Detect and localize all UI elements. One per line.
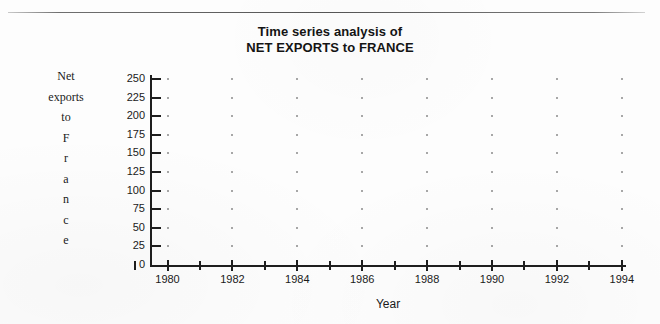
x-axis-spine [150, 265, 626, 267]
grid-dot [231, 208, 233, 210]
grid-dot [167, 115, 169, 117]
grid-dot [621, 152, 623, 154]
grid-dot [426, 97, 428, 99]
grid-dot [167, 134, 169, 136]
y-tick-label-50: 50 [105, 222, 145, 233]
grid-dot [296, 171, 298, 173]
x-tick-1982 [231, 260, 233, 271]
x-tick-label-1994: 1994 [600, 274, 644, 285]
x-tick-1994 [621, 260, 623, 271]
grid-dot [621, 227, 623, 229]
y-tick-25 [150, 245, 161, 247]
y-tick-label-200: 200 [105, 110, 145, 121]
grid-dot [167, 97, 169, 99]
y-tick-label-250: 250 [105, 73, 145, 84]
x-tick-1992 [556, 260, 558, 271]
grid-dot [361, 115, 363, 117]
x-tick-label-1986: 1986 [340, 274, 384, 285]
grid-dot [361, 78, 363, 80]
grid-dot [296, 152, 298, 154]
grid-dot [231, 245, 233, 247]
y-tick-250 [150, 78, 161, 80]
grid-dot [491, 245, 493, 247]
grid-dot [296, 134, 298, 136]
y-tick-label-125: 125 [105, 166, 145, 177]
x-tick-label-1982: 1982 [210, 274, 254, 285]
grid-dot [231, 171, 233, 173]
grid-dot [426, 115, 428, 117]
x-tick-label-1984: 1984 [275, 274, 319, 285]
x-tick-minor-1993 [588, 261, 590, 270]
grid-dot [621, 115, 623, 117]
grid-dot [556, 245, 558, 247]
grid-dot [556, 152, 558, 154]
y-tick-label-225: 225 [105, 92, 145, 103]
y-tick-label-25: 25 [105, 240, 145, 251]
grid-dot [296, 190, 298, 192]
grid-dot [621, 171, 623, 173]
x-tick-minor-1987 [394, 261, 396, 270]
y-tick-50 [150, 227, 161, 229]
grid-dot [426, 171, 428, 173]
grid-dot [296, 78, 298, 80]
y-tick-75 [150, 208, 161, 210]
grid-dot [231, 78, 233, 80]
grid-dot [621, 208, 623, 210]
grid-dot [361, 171, 363, 173]
grid-dot [491, 171, 493, 173]
grid-dot [491, 227, 493, 229]
grid-dot [491, 190, 493, 192]
grid-dot [296, 97, 298, 99]
y-tick-225 [150, 97, 161, 99]
y-tick-label-150: 150 [105, 147, 145, 158]
y-tick-label-175: 175 [105, 129, 145, 140]
x-tick-minor-1989 [459, 261, 461, 270]
grid-dot [231, 134, 233, 136]
x-tick-1984 [296, 260, 298, 271]
grid-dot [556, 115, 558, 117]
grid-dot [167, 171, 169, 173]
x-tick-minor-1983 [264, 261, 266, 270]
grid-dot [361, 97, 363, 99]
x-tick-label-1990: 1990 [470, 274, 514, 285]
grid-dot [426, 208, 428, 210]
grid-dot [231, 152, 233, 154]
grid-dot [361, 134, 363, 136]
grid-dot [167, 78, 169, 80]
grid-dot [556, 190, 558, 192]
y-tick-175 [150, 134, 161, 136]
grid-dot [231, 115, 233, 117]
x-tick-1988 [426, 260, 428, 271]
x-tick-label-1988: 1988 [405, 274, 449, 285]
grid-dot [296, 227, 298, 229]
grid-dot [426, 190, 428, 192]
x-tick-minor-1991 [523, 261, 525, 270]
grid-dot [556, 208, 558, 210]
x-tick-1980 [167, 260, 169, 271]
x-tick-minor-1981 [199, 261, 201, 270]
grid-dot [167, 245, 169, 247]
grid-dot [491, 152, 493, 154]
x-tick-label-1980: 1980 [146, 274, 190, 285]
x-tick-label-1992: 1992 [535, 274, 579, 285]
y-tick-150 [150, 152, 161, 154]
grid-dot [361, 152, 363, 154]
grid-dot [621, 245, 623, 247]
x-tick-minor-1979 [134, 261, 136, 270]
y-tick-label-100: 100 [105, 185, 145, 196]
plot-area: 0255075100125150175200225250 19801982198… [0, 0, 660, 324]
grid-dot [491, 208, 493, 210]
grid-dot [167, 152, 169, 154]
grid-dot [231, 97, 233, 99]
grid-dot [167, 227, 169, 229]
grid-dot [231, 227, 233, 229]
grid-dot [167, 208, 169, 210]
grid-dot [491, 115, 493, 117]
y-tick-100 [150, 190, 161, 192]
grid-dot [491, 97, 493, 99]
figure-canvas: Time series analysis of NET EXPORTS to F… [0, 0, 660, 324]
grid-dot [361, 208, 363, 210]
grid-dot [556, 227, 558, 229]
grid-dot [426, 245, 428, 247]
grid-dot [426, 78, 428, 80]
